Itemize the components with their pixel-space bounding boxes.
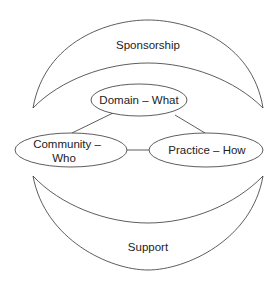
edge-domain-community [72,113,113,133]
edge-domain-practice [175,115,205,133]
community-of-practice-diagram: Sponsorship Domain – What Community – Wh… [0,0,275,286]
community-label-line1: Community – [33,138,101,150]
sponsorship-label: Sponsorship [116,39,180,51]
domain-label: Domain – What [99,94,179,106]
community-label-line2: Who [52,152,76,164]
support-label: Support [128,241,169,253]
support-crescent [33,176,263,270]
practice-label: Practice – How [168,144,246,156]
